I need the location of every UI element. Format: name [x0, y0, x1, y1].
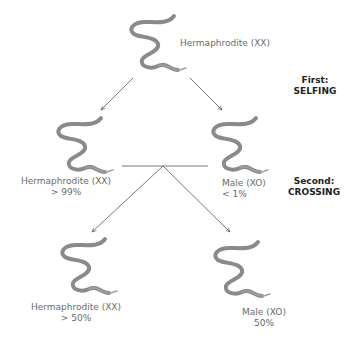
self-herm-name: Hermaphrodite (XX) — [14, 176, 118, 187]
self-herm-label: Hermaphrodite (XX) > 99% — [14, 176, 118, 198]
self-male-label: Male (XO) < 1% — [222, 178, 266, 200]
worm-icon-self-male — [213, 118, 268, 172]
cross-herm-pct: > 50% — [24, 313, 128, 324]
worm-icon-cross-herm — [62, 239, 117, 293]
cross-herm-label: Hermaphrodite (XX) > 50% — [24, 302, 128, 324]
arrow-cross-male — [163, 166, 230, 232]
stage-first: First: SELFING — [290, 75, 340, 97]
cross-male-label: Male (XO) 50% — [234, 307, 294, 329]
stage-second-line1: Second: — [288, 176, 340, 187]
parent-label: Hermaphrodite (XX) — [180, 38, 270, 49]
self-male-name: Male (XO) — [222, 178, 266, 189]
stage-first-line1: First: — [290, 75, 340, 86]
arrow-self-herm — [101, 78, 133, 110]
worm-icon-parent — [131, 16, 186, 70]
self-male-pct: < 1% — [222, 189, 266, 200]
worm-icon-cross-male — [215, 242, 270, 296]
cross-male-pct: 50% — [234, 318, 294, 329]
stage-second: Second: CROSSING — [288, 176, 340, 198]
lineage-diagram — [0, 0, 345, 341]
cross-male-name: Male (XO) — [234, 307, 294, 318]
worm-icon-self-herm — [58, 118, 113, 172]
self-herm-pct: > 99% — [14, 187, 118, 198]
arrow-self-male — [190, 78, 222, 110]
stage-second-line2: CROSSING — [288, 187, 340, 198]
stage-first-line2: SELFING — [290, 86, 340, 97]
cross-herm-name: Hermaphrodite (XX) — [24, 302, 128, 313]
